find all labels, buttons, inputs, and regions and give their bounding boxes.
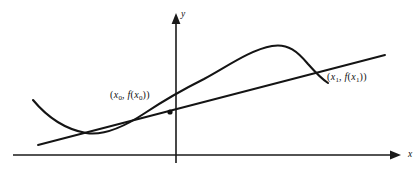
- secant-line-figure: y x (x0, f(x0)) (x1, f(x1)): [0, 0, 420, 185]
- y-axis-arrowhead: [172, 13, 181, 24]
- x-axis-arrowhead: [390, 151, 401, 160]
- y-axis-label: y: [181, 10, 185, 20]
- secant-line: [38, 55, 385, 145]
- x-axis-label: x: [408, 150, 412, 160]
- point-label-x1: (x1, f(x1)): [327, 72, 367, 84]
- p0-close-paren: ): [146, 89, 150, 100]
- figure-canvas: [0, 0, 420, 185]
- point-label-x0: (x0, f(x0)): [110, 90, 150, 102]
- function-curve: [33, 45, 328, 133]
- point-marker-x0: [167, 109, 172, 114]
- p1-close-paren: ): [363, 71, 367, 82]
